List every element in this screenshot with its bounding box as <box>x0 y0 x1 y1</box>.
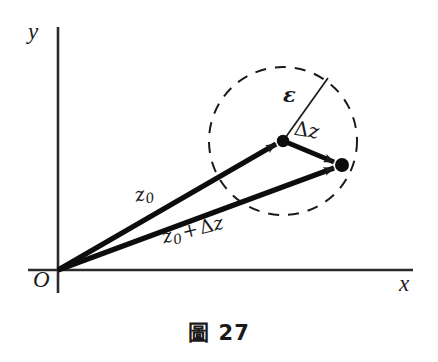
figure-caption: 圖 27 <box>0 316 438 346</box>
x-axis-label: x <box>399 272 409 295</box>
epsilon-label: ε <box>283 84 296 105</box>
figure-container: y x O ε Δz z0 z0+Δz 圖 27 <box>0 0 438 362</box>
point-z0-endpoint <box>277 135 289 147</box>
complex-plane-diagram <box>0 0 438 362</box>
point-z0-plus-delta-z-endpoint <box>335 158 349 172</box>
origin-label: O <box>33 268 50 291</box>
vector-z0 <box>58 144 276 270</box>
delta-z-label: Δz <box>293 118 321 142</box>
y-axis-label: y <box>28 20 38 43</box>
z0-label: z0 <box>133 182 156 208</box>
vector-delta-z <box>286 142 334 162</box>
